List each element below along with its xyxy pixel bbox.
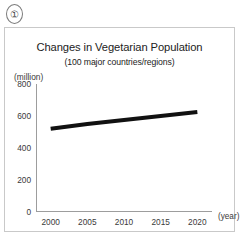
y-tick-label: 200 <box>17 175 31 185</box>
x-axis-unit-label: (year) <box>218 212 239 221</box>
x-tick-label: 2000 <box>41 217 59 227</box>
data-series-line <box>51 112 198 129</box>
y-tick-label: 0 <box>26 207 31 217</box>
y-tick-label: 800 <box>17 79 31 89</box>
data-line-svg <box>36 84 212 212</box>
plot-area: 0200400600800 20002005201020152020 <box>36 84 212 212</box>
chart-subtitle: (100 major countries/regions) <box>5 57 234 67</box>
question-number-marker: ① <box>6 4 23 24</box>
figure-frame: Changes in Vegetarian Population (100 ma… <box>4 27 235 232</box>
x-tick-label: 2020 <box>188 217 206 227</box>
x-tick-label: 2010 <box>115 217 133 227</box>
chart-title: Changes in Vegetarian Population <box>5 41 234 53</box>
x-tick-label: 2005 <box>78 217 96 227</box>
y-tick-label: 600 <box>17 111 31 121</box>
y-tick-label: 400 <box>17 143 31 153</box>
x-tick-label: 2015 <box>151 217 169 227</box>
